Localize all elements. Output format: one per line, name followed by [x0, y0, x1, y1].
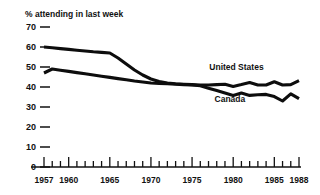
chart-page: % attending in last week 010203040506070… [0, 0, 320, 195]
data-series-group [44, 47, 299, 101]
y-tick-label: 10 [26, 142, 36, 152]
y-tick-label: 60 [26, 42, 36, 52]
y-axis-title: % attending in last week [25, 9, 124, 19]
x-tick-label: 1970 [141, 175, 160, 185]
y-tick-label: 20 [26, 122, 36, 132]
x-tick-label: 1960 [59, 175, 78, 185]
y-tick-label: 50 [26, 62, 36, 72]
x-tick-label: 1975 [183, 175, 202, 185]
series-label-united-states: United States [209, 62, 264, 72]
x-tick-label: 1985 [265, 175, 284, 185]
x-tick-label: 1980 [224, 175, 243, 185]
x-axis-tick-labels: 19571960196519701975198019851988 [35, 175, 309, 185]
x-tick-label: 1957 [35, 175, 54, 185]
x-tick-label: 1988 [290, 175, 309, 185]
y-axis-tick-labels: 010203040506070 [26, 22, 36, 172]
series-label-canada: Canada [215, 94, 246, 104]
y-tick-label: 70 [26, 22, 36, 32]
y-tick-label: 30 [26, 102, 36, 112]
x-tick-label: 1965 [100, 175, 119, 185]
y-tick-label: 40 [26, 82, 36, 92]
line-chart: % attending in last week 010203040506070… [0, 0, 320, 195]
x-axis [31, 157, 301, 167]
